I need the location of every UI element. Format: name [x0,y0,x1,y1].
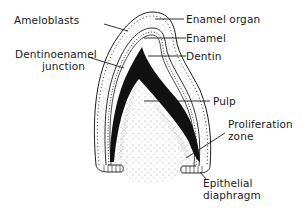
label-enamel-organ: Enamel organ [186,13,260,25]
tooth-development-diagram [0,0,303,212]
label-epithelial-diaphragm-line2: diaphragm [203,189,261,201]
label-dentinoenamel-junction-line2: junction [15,60,85,72]
label-ameloblasts: Ameloblasts [14,14,79,26]
label-epithelial-diaphragm-line1: Epithelial [203,177,253,189]
label-proliferation-zone-line1: Proliferation [228,118,293,130]
label-proliferation-zone-line2: zone [228,130,253,142]
label-enamel: Enamel [186,32,226,44]
label-pulp: Pulp [213,95,236,107]
label-dentinoenamel-junction-line1: Dentinoenamel [15,48,85,60]
label-dentin: Dentin [186,50,222,62]
